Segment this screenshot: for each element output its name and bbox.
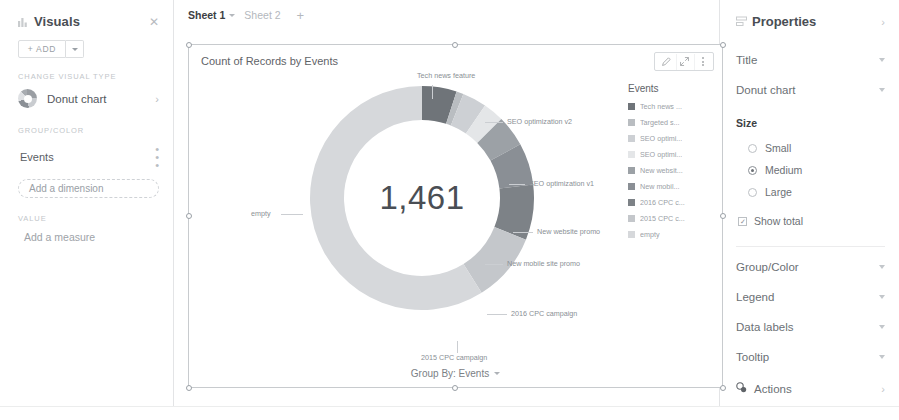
properties-panel: Properties › Title Donut chart Size Smal…	[719, 0, 899, 420]
properties-sections: Group/ColorLegendData labelsTooltip	[736, 252, 885, 372]
sheet-tabs: Sheet 1 Sheet 2 +	[174, 0, 719, 30]
group-color-section-label: GROUP/COLOR	[18, 126, 159, 135]
properties-section-label: Group/Color	[736, 261, 879, 273]
chevron-down-icon[interactable]	[494, 372, 500, 375]
visuals-panel-title: Visuals	[34, 14, 80, 29]
legend-item[interactable]: SEO optimi...	[628, 150, 712, 159]
add-dimension-button[interactable]: Add a dimension	[18, 179, 159, 198]
legend-item[interactable]: Targeted s...	[628, 118, 712, 127]
legend-items: Tech news ...Targeted s...SEO optimi...S…	[628, 102, 712, 239]
properties-icon	[736, 16, 747, 27]
legend-item[interactable]: New mobil...	[628, 182, 712, 191]
resize-handle[interactable]	[186, 385, 192, 391]
size-option-small[interactable]: Small	[736, 137, 885, 159]
properties-section-data-labels[interactable]: Data labels	[736, 312, 885, 342]
chevron-right-icon: ›	[155, 93, 159, 105]
size-option-large[interactable]: Large	[736, 181, 885, 203]
chevron-right-icon[interactable]: ›	[881, 16, 885, 28]
expand-icon[interactable]	[676, 54, 692, 70]
legend-label: Tech news ...	[640, 102, 682, 111]
show-total-label: Show total	[754, 215, 803, 227]
close-icon[interactable]: ✕	[149, 16, 159, 28]
chevron-down-icon	[879, 265, 885, 269]
show-total-checkbox[interactable]: ✓ Show total	[736, 203, 885, 241]
legend-label: 2016 CPC c...	[640, 198, 685, 207]
add-sheet-button[interactable]: +	[297, 8, 305, 23]
slice-label: SEO optimization v1	[529, 179, 594, 188]
chart-container[interactable]: Count of Records by Events 1,461 Tech ne…	[188, 44, 723, 388]
chart-legend: Events Tech news ...Targeted s...SEO opt…	[628, 83, 712, 246]
resize-handle[interactable]	[186, 42, 192, 48]
add-dropdown-button[interactable]	[66, 40, 84, 58]
field-menu-icon[interactable]: •••	[155, 145, 159, 169]
add-measure-button[interactable]: Add a measure	[18, 231, 159, 243]
legend-item[interactable]: Tech news ...	[628, 102, 712, 111]
legend-label: Targeted s...	[640, 118, 680, 127]
visual-type-selector[interactable]: Donut chart ›	[18, 89, 159, 108]
group-color-field[interactable]: Events •••	[18, 143, 159, 171]
value-section-label: VALUE	[18, 214, 159, 223]
leader-line	[432, 85, 433, 99]
legend-item[interactable]: 2015 CPC c...	[628, 214, 712, 223]
divider	[736, 246, 885, 247]
visuals-panel: Visuals ✕ + ADD CHANGE VISUAL TYPE Donut…	[0, 0, 174, 420]
properties-section-legend[interactable]: Legend	[736, 282, 885, 312]
leader-line	[513, 232, 533, 233]
leader-line	[485, 264, 503, 265]
legend-swatch	[628, 167, 635, 174]
chevron-down-icon[interactable]	[229, 14, 235, 17]
resize-handle[interactable]	[720, 42, 726, 48]
actions-row[interactable]: Actions ›	[736, 372, 885, 405]
donut-center-total: 1,461	[307, 179, 537, 217]
chart-toolbar	[654, 52, 714, 71]
properties-panel-title: Properties	[752, 14, 816, 29]
legend-item[interactable]: SEO optimi...	[628, 134, 712, 143]
chevron-down-icon	[879, 88, 885, 92]
legend-title: Events	[628, 83, 712, 94]
actions-label: Actions	[754, 383, 874, 395]
size-option-label: Large	[765, 186, 792, 198]
resize-handle[interactable]	[186, 213, 192, 219]
tab-sheet-2[interactable]: Sheet 2	[244, 9, 280, 21]
visuals-panel-header: Visuals ✕	[18, 14, 159, 29]
donut-chart[interactable]: 1,461	[307, 83, 537, 313]
chevron-down-icon	[879, 58, 885, 62]
add-button[interactable]: + ADD	[18, 40, 66, 58]
group-by-control[interactable]: Group By: Events	[189, 368, 722, 379]
canvas-area: Sheet 1 Sheet 2 + Count of Records by Ev…	[174, 0, 719, 420]
legend-item[interactable]: New websit...	[628, 166, 712, 175]
legend-item[interactable]: empty	[628, 230, 712, 239]
properties-section-tooltip[interactable]: Tooltip	[736, 342, 885, 372]
properties-row-title[interactable]: Title	[736, 45, 885, 75]
tab-sheet-1[interactable]: Sheet 1	[188, 9, 235, 21]
add-visual-control: + ADD	[18, 40, 159, 58]
properties-row-donut-chart[interactable]: Donut chart	[736, 75, 885, 105]
legend-label: SEO optimi...	[640, 134, 682, 143]
leader-line	[457, 341, 458, 353]
properties-section-group-color[interactable]: Group/Color	[736, 252, 885, 282]
legend-item[interactable]: 2016 CPC c...	[628, 198, 712, 207]
radio-icon	[748, 166, 757, 175]
legend-swatch	[628, 119, 635, 126]
more-dots	[702, 57, 704, 66]
size-option-medium[interactable]: Medium	[736, 159, 885, 181]
slice-label: 2016 CPC campaign	[511, 309, 577, 318]
chart-title: Count of Records by Events	[201, 55, 338, 67]
resize-handle[interactable]	[452, 385, 458, 391]
tab-sheet-1-label: Sheet 1	[188, 9, 225, 21]
resize-handle[interactable]	[720, 213, 726, 219]
resize-handle[interactable]	[452, 42, 458, 48]
chevron-right-icon: ›	[881, 383, 885, 395]
size-label: Size	[736, 117, 885, 129]
more-vertical-icon[interactable]	[694, 54, 710, 70]
legend-label: New mobil...	[640, 182, 680, 191]
chevron-down-icon	[72, 48, 78, 51]
change-visual-type-label: CHANGE VISUAL TYPE	[18, 72, 159, 81]
legend-label: empty	[640, 230, 660, 239]
legend-label: 2015 CPC c...	[640, 214, 685, 223]
radio-icon	[748, 188, 757, 197]
pencil-icon[interactable]	[658, 54, 674, 70]
resize-handle[interactable]	[720, 385, 726, 391]
group-color-field-name: Events	[20, 151, 155, 163]
actions-icon	[736, 382, 747, 395]
